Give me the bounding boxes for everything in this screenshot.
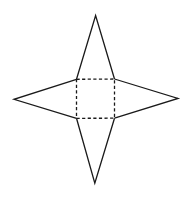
bottom-triangle-face	[77, 118, 115, 183]
right-triangle-face	[115, 79, 179, 118]
top-triangle-face	[77, 16, 115, 80]
square-base-fold-lines	[77, 79, 115, 118]
pyramid-net-diagram	[0, 0, 191, 201]
left-triangle-face	[14, 79, 77, 118]
